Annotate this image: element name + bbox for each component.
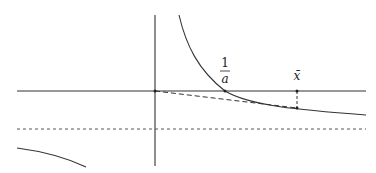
one-over-a-numerator: 1	[221, 56, 229, 70]
x-bar-label: x̄	[294, 69, 301, 83]
one-over-a-point	[224, 90, 227, 93]
origin-point	[154, 90, 157, 93]
dashed-secant-line	[155, 91, 297, 108]
hyperbola-left-branch	[17, 148, 86, 167]
hyperbola-right-branch	[179, 15, 366, 115]
x-bar-curve-point	[296, 107, 299, 110]
hyperbola-diagram: 1 a x̄	[0, 0, 376, 173]
one-over-a-denominator: a	[221, 72, 228, 86]
x-bar-axis-point	[296, 90, 299, 93]
